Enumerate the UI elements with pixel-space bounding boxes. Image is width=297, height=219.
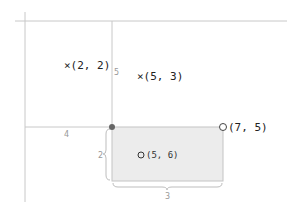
width-brace xyxy=(113,183,222,190)
point-label-5-3: ×(5, 3) xyxy=(137,70,183,83)
height-brace xyxy=(103,129,110,180)
dim-label-rect-height: 2 xyxy=(98,151,103,160)
point-label-2-2: ×(2, 2) xyxy=(64,59,110,72)
dim-label-horizontal: 4 xyxy=(64,130,69,139)
dim-label-rect-width: 3 xyxy=(165,192,170,201)
diagram-canvas: 5 4 2 3 ×(2, 2) ×(5, 3) (5, 6) (7, 5) xyxy=(0,0,297,219)
point-label-7-5: (7, 5) xyxy=(228,121,268,134)
dim-label-vertical: 5 xyxy=(114,68,119,77)
circle-marker-7-5 xyxy=(220,124,227,131)
point-label-5-6: (5, 6) xyxy=(146,150,179,160)
corner-dot xyxy=(109,124,115,130)
